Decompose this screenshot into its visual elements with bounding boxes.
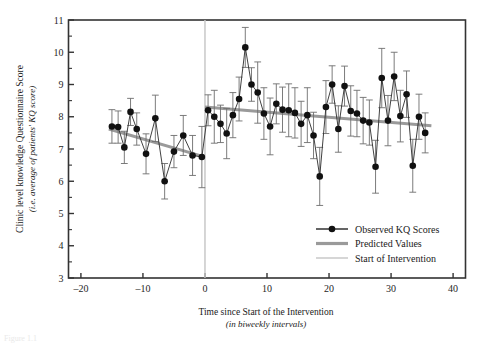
x-tick-label: 20 xyxy=(324,283,334,294)
observed-data-point xyxy=(127,109,134,116)
observed-data-point xyxy=(267,123,274,130)
x-tick-label: 30 xyxy=(386,283,396,294)
legend-marker-swatch xyxy=(329,226,336,233)
observed-data-point xyxy=(323,104,330,111)
observed-data-point xyxy=(403,91,410,98)
x-tick-label: –10 xyxy=(134,283,150,294)
observed-data-point xyxy=(329,81,336,88)
observed-data-point xyxy=(304,112,311,119)
observed-data-point xyxy=(335,126,342,133)
observed-data-point xyxy=(285,107,292,114)
observed-data-point xyxy=(199,154,206,161)
y-tick-label: 7 xyxy=(59,144,64,155)
observed-data-point xyxy=(189,152,196,159)
observed-data-point xyxy=(347,108,354,115)
observed-data-point xyxy=(397,113,404,120)
observed-data-point xyxy=(254,89,261,96)
observed-data-point xyxy=(261,110,268,117)
observed-data-point xyxy=(316,173,323,180)
kq-score-time-series-chart: 34567891011 –20–10010203040 Observed KQ … xyxy=(0,0,477,346)
x-tick-label: 0 xyxy=(202,283,207,294)
y-tick-label: 9 xyxy=(59,79,64,90)
y-tick-label: 3 xyxy=(59,273,64,284)
chart-legend: Observed KQ ScoresPredicted ValuesStart … xyxy=(316,224,440,264)
observed-data-point xyxy=(236,96,243,103)
y-tick-label: 5 xyxy=(59,208,64,219)
observed-data-point xyxy=(360,117,367,124)
observed-data-point xyxy=(171,148,178,155)
legend-item-label: Observed KQ Scores xyxy=(355,224,440,235)
x-axis-subtitle: (in biweekly intervals) xyxy=(226,319,306,329)
observed-data-point xyxy=(242,44,249,51)
observed-data-point xyxy=(298,121,305,128)
observed-data-point xyxy=(422,130,429,137)
observed-data-point xyxy=(205,107,212,114)
observed-data-point xyxy=(133,126,140,133)
observed-data-point xyxy=(152,115,159,122)
observed-data-point xyxy=(341,83,348,90)
observed-data-point xyxy=(248,81,255,88)
figure-caption: Figure 1.1 xyxy=(4,334,37,343)
observed-data-point xyxy=(366,119,373,126)
observed-data-point xyxy=(385,117,392,124)
y-tick-label: 4 xyxy=(59,240,64,251)
observed-data-point xyxy=(354,110,361,117)
observed-data-point xyxy=(292,110,299,117)
observed-data-point xyxy=(217,121,224,128)
observed-data-point xyxy=(310,132,317,139)
x-tick-label: 40 xyxy=(448,283,458,294)
observed-data-point xyxy=(409,162,416,169)
x-axis-title: Time since Start of the Intervention xyxy=(199,307,334,317)
observed-data-point xyxy=(143,151,150,158)
observed-data-point xyxy=(273,101,280,108)
legend-item-label: Predicted Values xyxy=(355,238,422,249)
y-tick-label: 10 xyxy=(54,47,64,58)
observed-data-point xyxy=(109,123,116,130)
observed-data-point xyxy=(279,106,286,113)
observed-data-point xyxy=(378,75,385,82)
observed-data-point xyxy=(115,124,122,131)
y-tick-label: 11 xyxy=(54,15,64,26)
observed-data-point xyxy=(161,178,168,185)
observed-data-point xyxy=(180,132,187,139)
observed-data-point xyxy=(223,130,230,137)
observed-data-point xyxy=(230,112,237,119)
y-axis-title: Clinic level knowledge Questionnaire Sco… xyxy=(15,65,25,233)
legend-item-label: Start of Intervention xyxy=(355,253,436,264)
y-tick-label: 8 xyxy=(59,111,64,122)
figure-container: 34567891011 –20–10010203040 Observed KQ … xyxy=(0,0,477,346)
y-tick-label: 6 xyxy=(59,176,64,187)
observed-data-point xyxy=(372,163,379,170)
y-axis-subtitle: (i.e. average of patients' KQ score) xyxy=(27,86,37,212)
observed-data-point xyxy=(121,144,128,151)
observed-data-point xyxy=(211,113,218,120)
observed-data-point xyxy=(391,73,398,80)
x-tick-label: –20 xyxy=(72,283,88,294)
x-tick-label: 10 xyxy=(262,283,272,294)
observed-data-point xyxy=(416,113,423,120)
